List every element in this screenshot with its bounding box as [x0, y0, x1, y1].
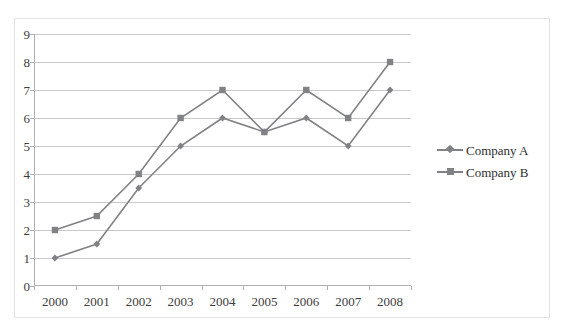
data-point-square-marker: [345, 115, 351, 121]
y-axis-tick-label: 0: [8, 280, 30, 293]
x-tick-mark: [411, 286, 412, 290]
x-tick-mark: [34, 286, 35, 290]
legend-key-diamond-icon: [437, 144, 463, 156]
x-tick-mark: [202, 286, 203, 290]
plot-area: 0123456789 20002001200220032004200520062…: [34, 34, 411, 286]
x-axis-tick-label: 2003: [158, 295, 204, 308]
data-point-square-marker: [177, 115, 183, 121]
x-axis-tick-label: 2001: [74, 295, 120, 308]
y-axis-tick-label: 5: [8, 140, 30, 153]
x-axis-tick-label: 2006: [283, 295, 329, 308]
series-company-a: [52, 87, 394, 262]
y-axis-tick-label: 3: [8, 196, 30, 209]
x-tick-mark: [160, 286, 161, 290]
y-axis-tick-label: 9: [8, 28, 30, 41]
data-point-square-marker: [261, 129, 267, 135]
data-point-square-marker: [52, 227, 58, 233]
legend-item-company-b[interactable]: Company B: [437, 161, 535, 183]
x-axis-tick-label: 2008: [367, 295, 413, 308]
legend-item-company-a[interactable]: Company A: [437, 139, 535, 161]
x-tick-mark: [76, 286, 77, 290]
clipped-top-text: [0, 0, 566, 10]
data-point-square-marker: [94, 213, 100, 219]
x-axis-tick-label: 2002: [116, 295, 162, 308]
y-axis-tick-label: 4: [8, 168, 30, 181]
series-company-b: [52, 59, 394, 233]
x-axis-tick-label: 2007: [325, 295, 371, 308]
legend-label-company-b: Company B: [466, 166, 528, 179]
x-tick-mark: [369, 286, 370, 290]
x-tick-mark: [118, 286, 119, 290]
data-point-diamond-marker: [52, 255, 59, 262]
chart-frame: 0123456789 20002001200220032004200520062…: [14, 18, 550, 318]
x-tick-mark: [285, 286, 286, 290]
y-axis-tick-label: 6: [8, 112, 30, 125]
x-axis-tick-label: 2005: [241, 295, 287, 308]
x-axis-tick-label: 2004: [200, 295, 246, 308]
series-layer: [34, 34, 411, 286]
y-axis-tick-label: 7: [8, 84, 30, 97]
legend-label-company-a: Company A: [466, 144, 528, 157]
data-point-square-marker: [136, 171, 142, 177]
y-axis-tick-label: 2: [8, 224, 30, 237]
y-axis-tick-label: 8: [8, 56, 30, 69]
y-axis-tick-label: 1: [8, 252, 30, 265]
data-point-square-marker: [219, 87, 225, 93]
legend-key-square-icon: [437, 166, 463, 178]
x-tick-mark: [327, 286, 328, 290]
x-tick-mark: [243, 286, 244, 290]
chart-legend: Company A Company B: [435, 135, 539, 187]
data-point-square-marker: [387, 59, 393, 65]
x-axis-tick-label: 2000: [32, 295, 78, 308]
data-point-square-marker: [303, 87, 309, 93]
